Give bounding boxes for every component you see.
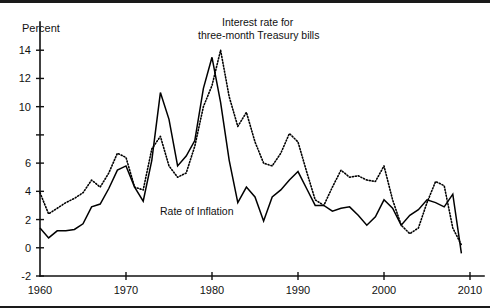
chart-figure: -20246101214 196019701980199020002010 Pe…: [0, 0, 490, 308]
x-tick-label-1960: 1960: [28, 284, 52, 296]
series-line-treasury-bill-rate: [40, 50, 461, 245]
x-axis-tick-labels: 196019701980199020002010: [28, 284, 482, 296]
y-tick-label-14: 14: [19, 44, 31, 56]
annotation-inflation-rate: Rate of Inflation: [160, 205, 234, 217]
chart-plot-area: -20246101214 196019701980199020002010 Pe…: [0, 0, 490, 308]
x-tick-label-1970: 1970: [114, 284, 138, 296]
y-tick-label-0: 0: [25, 242, 31, 254]
y-tick-label--2: -2: [21, 270, 31, 282]
series-line-inflation-rate: [40, 57, 461, 253]
y-tick-label-10: 10: [19, 101, 31, 113]
x-tick-label-1980: 1980: [200, 284, 224, 296]
y-tick-label-2: 2: [25, 214, 31, 226]
y-tick-label-12: 12: [19, 72, 31, 84]
y-tick-label-6: 6: [25, 157, 31, 169]
x-tick-label-1990: 1990: [286, 284, 310, 296]
y-axis-title: Percent: [22, 22, 60, 34]
annotation-interest-rate-line1: Interest rate for: [222, 16, 294, 28]
x-tick-label-2010: 2010: [458, 284, 482, 296]
annotation-interest-rate-line2: three-month Treasury bills: [198, 29, 319, 41]
y-axis-tick-labels: -20246101214: [19, 44, 31, 282]
x-tick-label-2000: 2000: [372, 284, 396, 296]
y-tick-label-4: 4: [25, 185, 31, 197]
